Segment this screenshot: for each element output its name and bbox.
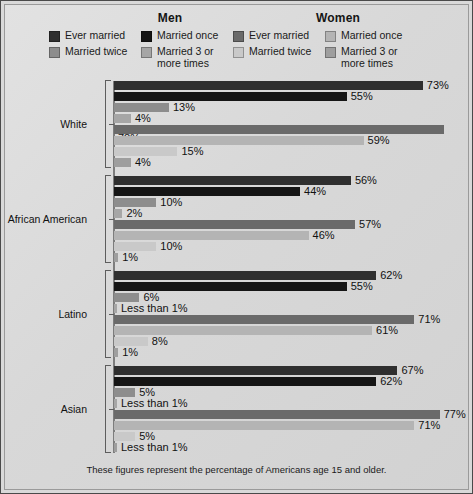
- legend-swatch-icon: [141, 47, 152, 58]
- bar: [114, 315, 414, 324]
- bar: [114, 326, 372, 335]
- category-label: Asian: [0, 403, 87, 415]
- chart-group: Asian67%62%5%Less than 1%77%71%5%Less th…: [5, 366, 468, 454]
- legend-swatch-icon: [49, 31, 60, 42]
- chart-figure: Men Women Ever marriedMarried onceMarrie…: [0, 0, 473, 494]
- legend-item: Ever married: [49, 30, 141, 42]
- bar-value-label: 5%: [139, 432, 155, 441]
- legend-swatch-icon: [325, 31, 336, 42]
- legend-label: Married twice: [65, 46, 127, 58]
- bar-value-label: 62%: [380, 271, 402, 280]
- bar: [114, 304, 117, 313]
- bar-value-label: 71%: [418, 315, 440, 324]
- bar-row: 2%: [114, 209, 142, 218]
- category-label: African American: [0, 213, 87, 225]
- bar-value-label: 71%: [418, 421, 440, 430]
- chart-plot-area: White73%55%13%4%78%59%15%4%African Ameri…: [5, 75, 468, 465]
- bar-row: 13%: [114, 103, 195, 112]
- legend-label: Married twice: [249, 46, 311, 58]
- bar-value-label: 62%: [380, 377, 402, 386]
- bar-row: Less than 1%: [114, 443, 188, 452]
- bar-value-label: 10%: [160, 198, 182, 207]
- legend-label: Ever married: [249, 30, 309, 42]
- bar: [114, 209, 122, 218]
- bar: [114, 337, 148, 346]
- legend-item: Married once: [141, 30, 237, 42]
- men-group-title: Men: [95, 11, 245, 25]
- bar: [114, 176, 351, 185]
- legend-item: Married twice: [233, 46, 325, 69]
- men-legend: Ever marriedMarried onceMarried twiceMar…: [49, 30, 237, 73]
- bar-row: 44%: [114, 187, 326, 196]
- legend-swatch-icon: [141, 31, 152, 42]
- bar-value-label: 55%: [351, 282, 373, 291]
- bar: [114, 187, 300, 196]
- bar-row: 61%: [114, 326, 398, 335]
- bar-value-label: 5%: [139, 388, 155, 397]
- bar-row: 55%: [114, 282, 373, 291]
- bar-row: 4%: [114, 114, 151, 123]
- legend-swatch-icon: [233, 47, 244, 58]
- bar: [114, 388, 135, 397]
- legend-label: Ever married: [65, 30, 125, 42]
- bar: [114, 432, 135, 441]
- bar: [114, 399, 117, 408]
- women-legend-row: Married twiceMarried 3 or more times: [233, 46, 421, 73]
- bar-value-label: 6%: [143, 293, 159, 302]
- bar-value-label: 1%: [122, 348, 138, 357]
- legend-item: Married 3 or more times: [141, 46, 237, 69]
- bar: [114, 366, 397, 375]
- bar-row: 62%: [114, 271, 402, 280]
- bar-value-label: 61%: [376, 326, 398, 335]
- bar-value-label: 4%: [135, 158, 151, 167]
- bar-value-label: Less than 1%: [121, 304, 188, 313]
- bar: [114, 125, 444, 134]
- women-legend: Ever marriedMarried onceMarried twiceMar…: [233, 30, 421, 73]
- bar: [114, 81, 423, 90]
- men-legend-row: Ever marriedMarried once: [49, 30, 237, 46]
- women-legend-row: Ever marriedMarried once: [233, 30, 421, 46]
- bar: [114, 114, 131, 123]
- bar-value-label: 57%: [359, 220, 381, 229]
- chart-legend-header: Men Women Ever marriedMarried onceMarrie…: [5, 5, 468, 75]
- chart-group: Latino62%55%6%Less than 1%71%61%8%1%: [5, 271, 468, 359]
- bar-row: 55%: [114, 92, 373, 101]
- legend-label: Married 3 or more times: [157, 46, 237, 69]
- bar-row: 59%: [114, 136, 390, 145]
- bar-row: 8%: [114, 337, 168, 346]
- bar: [114, 253, 118, 262]
- bar: [114, 103, 169, 112]
- bar-value-label: 73%: [427, 81, 449, 90]
- bar-row: 15%: [114, 147, 203, 156]
- legend-label: Married once: [341, 30, 402, 42]
- bar: [114, 377, 376, 386]
- bar-row: 71%: [114, 315, 440, 324]
- chart-group: African American56%44%10%2%57%46%10%1%: [5, 176, 468, 264]
- bar-value-label: 1%: [122, 253, 138, 262]
- bar-value-label: 8%: [152, 337, 168, 346]
- bar-value-label: 67%: [401, 366, 423, 375]
- bar: [114, 136, 364, 145]
- bar-row: Less than 1%: [114, 399, 188, 408]
- legend-label: Married once: [157, 30, 218, 42]
- bar-row: 78%: [114, 125, 468, 134]
- bar-value-label: 13%: [173, 103, 195, 112]
- bar-value-label: 55%: [351, 92, 373, 101]
- bar-value-label: 10%: [160, 242, 182, 251]
- bar-value-label: 77%: [444, 410, 466, 419]
- legend-item: Married twice: [49, 46, 141, 69]
- bar-row: 46%: [114, 231, 335, 240]
- bar-row: 57%: [114, 220, 381, 229]
- bar-row: 6%: [114, 293, 159, 302]
- bar: [114, 158, 131, 167]
- bar-row: 5%: [114, 432, 155, 441]
- bar-row: 1%: [114, 348, 138, 357]
- bar-row: 10%: [114, 198, 182, 207]
- bar-value-label: 46%: [313, 231, 335, 240]
- men-legend-row: Married twiceMarried 3 or more times: [49, 46, 237, 73]
- bar: [114, 293, 139, 302]
- bar-row: 77%: [114, 410, 466, 419]
- legend-swatch-icon: [49, 47, 60, 58]
- bar-value-label: 2%: [126, 209, 142, 218]
- legend-item: Ever married: [233, 30, 325, 42]
